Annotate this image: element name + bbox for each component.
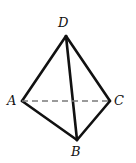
edge-layer (22, 36, 110, 140)
vertex-label-c: C (114, 94, 124, 107)
tetrahedron-figure: A B C D (0, 0, 136, 163)
vertex-label-b: B (71, 145, 81, 158)
vertex-label-a: A (7, 94, 16, 107)
edge-ad (22, 36, 66, 101)
edge-ab (22, 101, 77, 140)
vertex-label-d: D (58, 16, 68, 29)
edge-bc (77, 101, 110, 140)
